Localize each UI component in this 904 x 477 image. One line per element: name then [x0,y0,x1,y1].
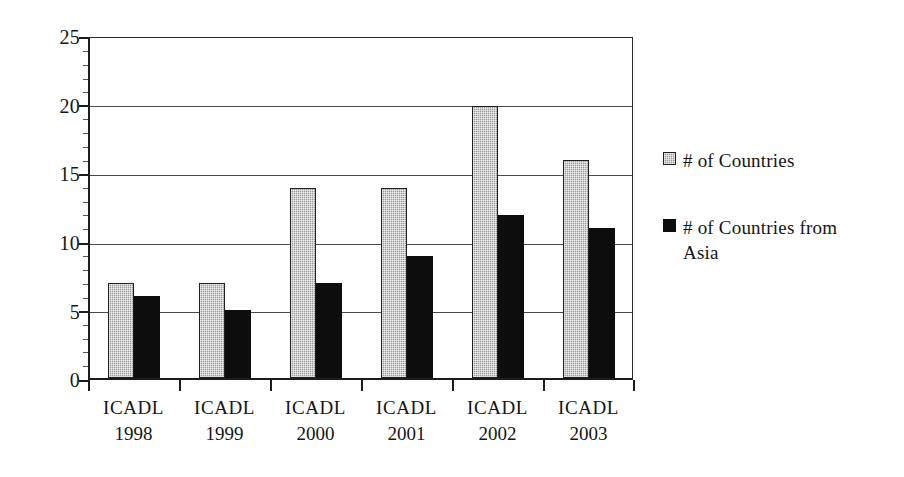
x-axis-label-icadl-2002: ICADL 2002 [452,395,543,447]
x-axis-label-icadl-2001: ICADL 2001 [361,395,452,447]
x-axis-label-icadl-1999: ICADL 1999 [179,395,270,447]
bar-countries-asia-1999 [225,310,251,378]
x-tick-mark [270,380,272,391]
legend-label-countries-from-asia-line1: # of Countries from [683,215,899,240]
x-axis-label-line1: ICADL [270,395,361,421]
legend-label-countries: # of Countries [683,148,899,173]
bar-chart-figure: 25 20 15 10 5 0 [0,0,904,477]
y-tick-label-25: 25 [36,27,80,47]
y-axis-labels: 25 20 15 10 5 0 [20,0,80,477]
bar-group-icadl-2001 [363,38,454,378]
x-tick-mark [543,380,545,391]
bar-countries-2002 [472,106,498,378]
x-axis-label-line2: 2001 [361,421,452,447]
y-tick-label-5: 5 [36,302,80,322]
bar-countries-asia-1998 [134,296,160,378]
x-axis-label-line2: 1998 [88,421,179,447]
x-axis-label-line1: ICADL [543,395,634,421]
x-axis-label-line1: ICADL [179,395,270,421]
x-axis-label-icadl-1998: ICADL 1998 [88,395,179,447]
y-tick-label-10: 10 [36,233,80,253]
x-axis-label-line2: 2000 [270,421,361,447]
x-axis-label-line2: 2003 [543,421,634,447]
x-axis-label-icadl-2003: ICADL 2003 [543,395,634,447]
bar-countries-asia-2003 [589,228,615,378]
bar-countries-asia-2001 [407,256,433,378]
bar-group-icadl-2002 [454,38,545,378]
bar-group-icadl-2003 [545,38,636,378]
x-axis-label-line1: ICADL [452,395,543,421]
y-tick-label-15: 15 [36,164,80,184]
bar-countries-asia-2002 [498,215,524,378]
x-axis-label-icadl-2000: ICADL 2000 [270,395,361,447]
x-axis-label-line1: ICADL [88,395,179,421]
bar-countries-1998 [108,283,134,378]
bar-countries-1999 [199,283,225,378]
bar-countries-asia-2000 [316,283,342,378]
x-axis-label-line1: ICADL [361,395,452,421]
legend-item-countries-from-asia: # of Countries from Asia [663,215,899,265]
bar-group-icadl-1999 [181,38,272,378]
bar-group-icadl-1998 [90,38,181,378]
x-tick-mark [179,380,181,391]
bar-countries-2003 [563,160,589,378]
plot-area [88,37,633,380]
x-tick-mark [452,380,454,391]
x-axis-label-line2: 2002 [452,421,543,447]
x-tick-mark [633,380,635,391]
y-tick-label-20: 20 [36,96,80,116]
bar-countries-2000 [290,188,316,378]
bar-countries-2001 [381,188,407,378]
legend-swatch-black-icon [663,219,676,232]
x-tick-mark [361,380,363,391]
y-tick-label-0: 0 [36,370,80,390]
bar-group-icadl-2000 [272,38,363,378]
legend-item-countries: # of Countries [663,148,899,176]
x-axis-label-line2: 1999 [179,421,270,447]
chart-legend: # of Countries # of Countries from Asia [663,148,899,265]
x-tick-mark [88,380,90,391]
legend-swatch-gray-icon [663,152,676,165]
legend-label-countries-from-asia-line2: Asia [683,240,899,265]
